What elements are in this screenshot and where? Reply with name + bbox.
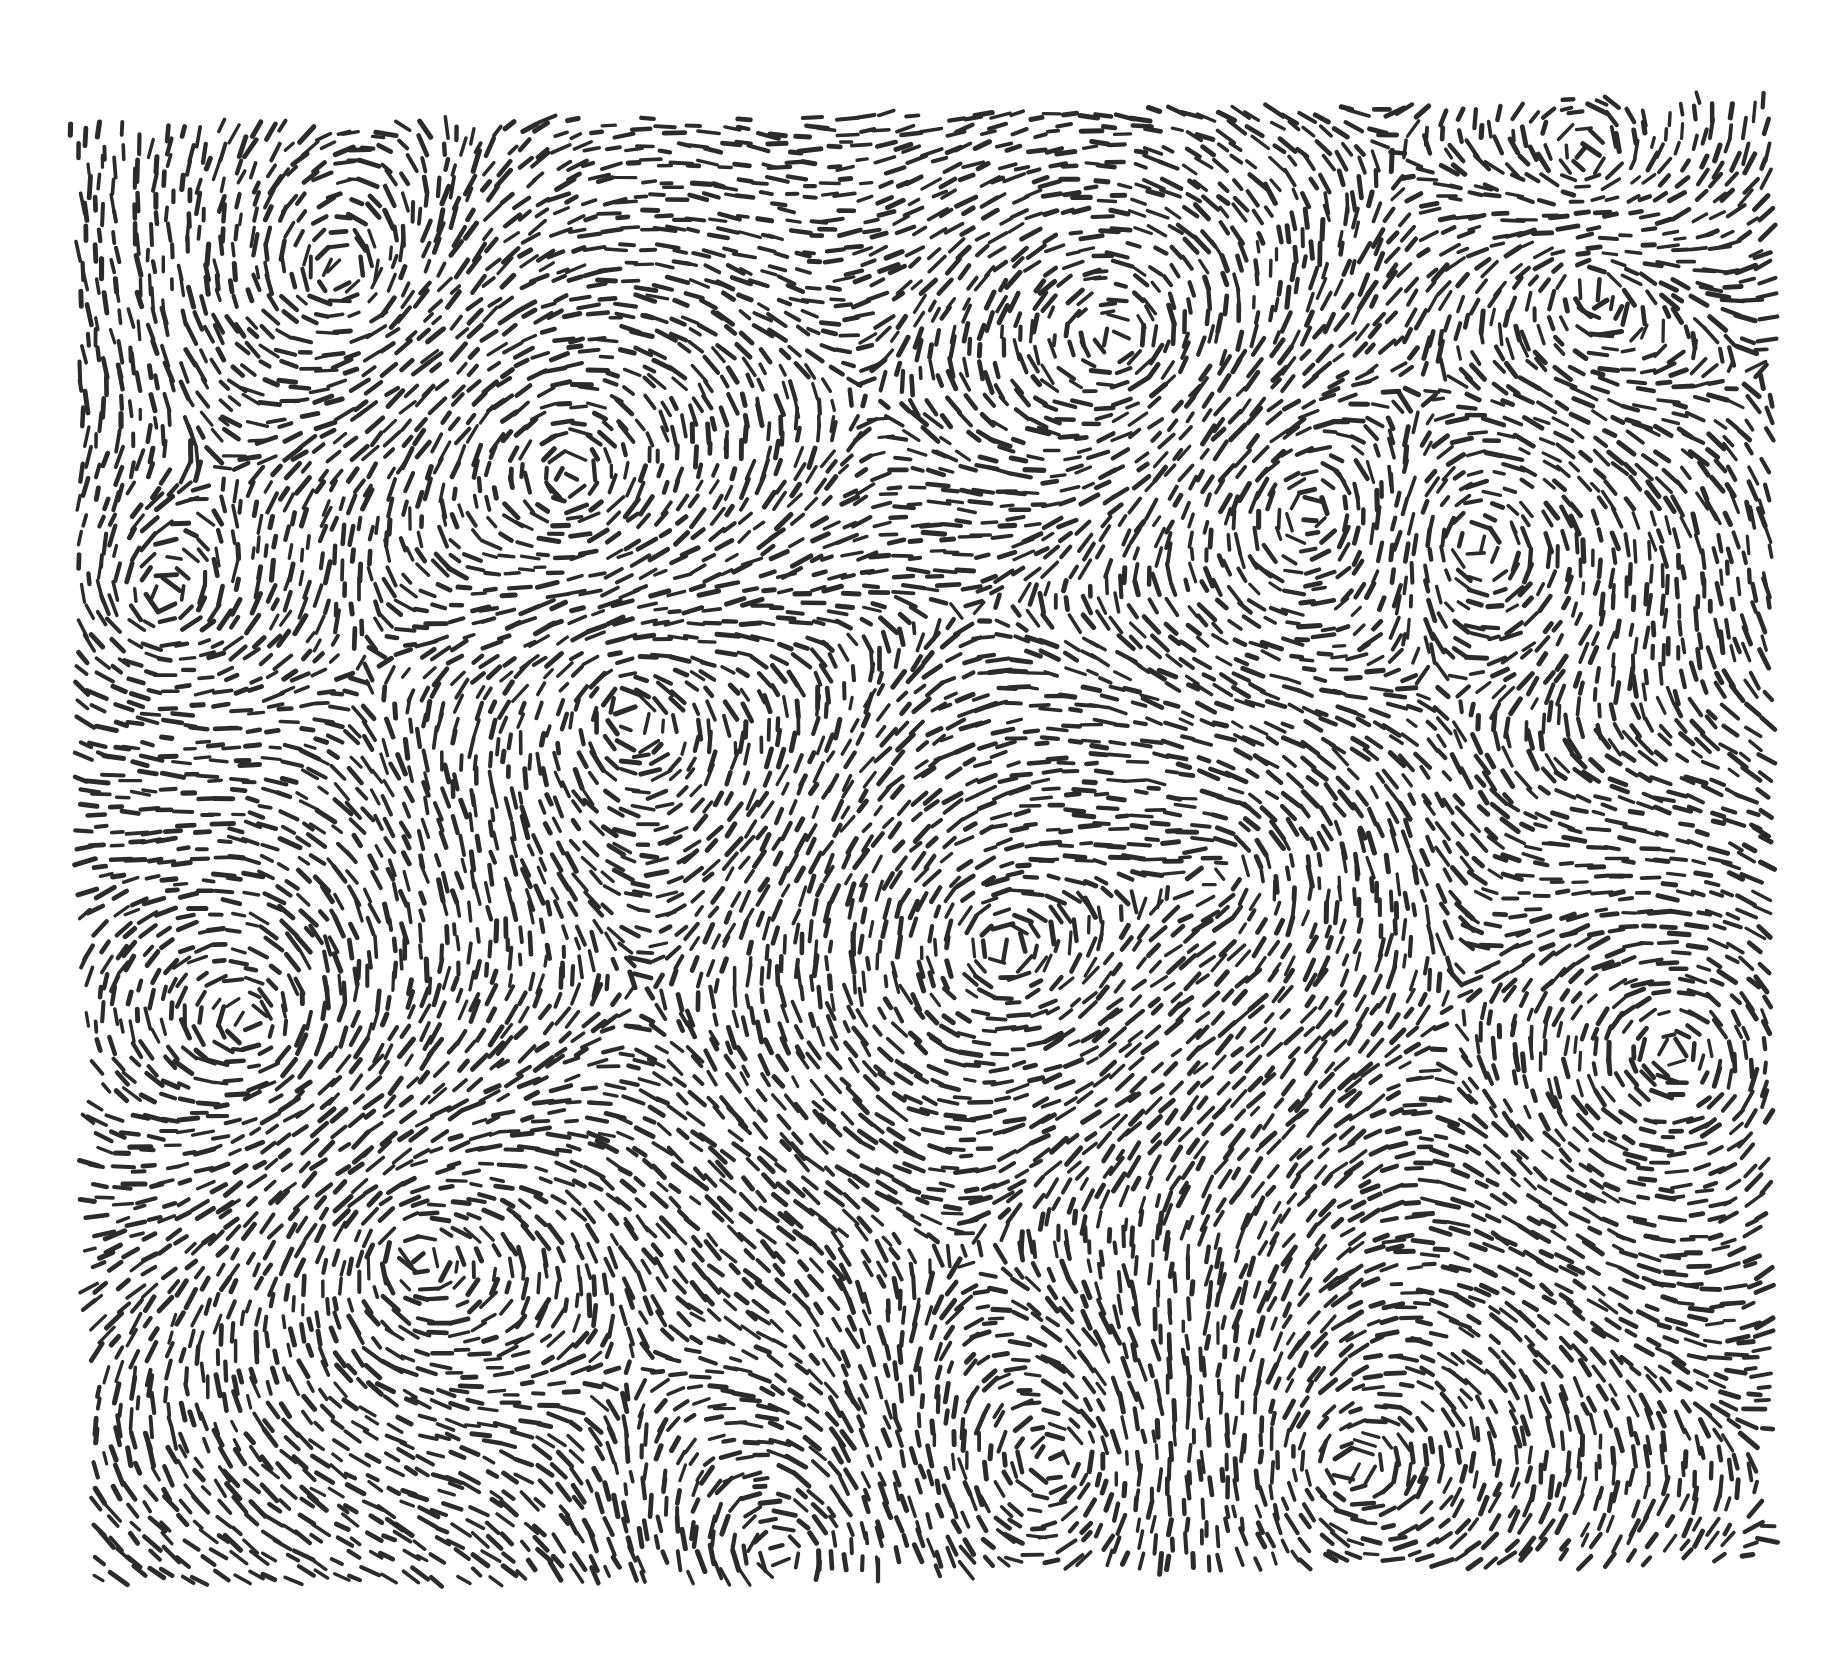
ink-dash [1135,722,1146,724]
ink-dash [1043,194,1060,197]
ink-dash [695,447,696,467]
ink-dash [1729,1460,1732,1479]
ink-dash [1178,764,1189,767]
ink-dash [1613,595,1614,608]
ink-dash [143,1165,155,1166]
ink-dash [142,714,160,715]
ink-dash [829,167,840,168]
ink-dash [316,1312,318,1326]
ink-dash [1092,216,1113,217]
ink-dash [1404,577,1406,593]
ink-dash [1557,1484,1560,1496]
ink-dash [1683,1463,1684,1475]
ink-dash [199,799,211,800]
ink-dash [1256,261,1258,274]
ink-dash [1510,915,1525,917]
ink-dash [510,975,512,986]
ink-dash [1512,1022,1514,1035]
ink-dash [1669,933,1689,935]
ink-dash [1121,906,1122,920]
ink-dash [1037,743,1048,744]
ink-dash [1676,579,1677,597]
ink-dash [279,380,296,382]
ink-dash [639,1529,642,1547]
ink-dash [249,712,264,714]
ink-dash [1550,1477,1552,1498]
ink-dash [1643,307,1645,324]
ink-dash [395,704,396,718]
ink-dash [1357,867,1358,879]
ink-dash [1613,654,1614,667]
ink-dash [176,644,187,646]
ink-dash [1319,878,1320,888]
ink-dash [174,811,193,812]
ink-dash [272,560,274,580]
ink-dash [1123,856,1143,859]
ink-dash [772,203,785,205]
ink-dash [190,727,207,729]
ink-dash [1039,1536,1056,1538]
ink-dash [553,421,573,424]
ink-dash [126,860,145,861]
ink-dash [1421,203,1437,206]
ink-dash [1595,212,1610,213]
ink-dash [1033,1428,1043,1430]
ink-dash [860,936,863,953]
ink-dash [206,277,208,294]
ink-dash [708,424,709,443]
ink-dash [1074,1211,1075,1223]
ink-dash [1563,192,1574,195]
ink-dash [1152,823,1168,824]
ink-dash [151,1417,153,1438]
ink-dash [1613,1463,1614,1484]
ink-dash [1180,857,1191,858]
ink-dash [1208,1425,1209,1445]
ink-dash [735,164,750,166]
ink-dash [515,1406,531,1409]
ink-dash [1386,1373,1405,1374]
ink-dash [615,201,636,202]
ink-dash [413,202,414,222]
ink-dash [1710,120,1713,139]
ink-dash [344,983,345,1003]
ink-dash [702,662,714,665]
ink-dash [1474,109,1476,128]
ink-dash [266,545,267,556]
ink-dash [258,537,259,552]
ink-dash [650,1495,651,1517]
ink-dash [1643,122,1645,133]
ink-dash [1633,597,1634,610]
ink-dash [1234,1418,1236,1434]
ink-dash [340,1279,342,1294]
ink-dash [1013,1360,1029,1361]
ink-dash [114,1187,131,1189]
ink-dash [159,659,170,661]
ink-dash [532,1128,550,1131]
ink-dash [827,249,844,251]
ink-dash [1081,236,1102,239]
ink-dash [1304,520,1317,521]
ink-dash [1169,1520,1172,1535]
ink-dash [1144,859,1165,860]
ink-dash [710,219,726,221]
ink-dash [1354,889,1355,904]
ink-dash [133,1171,145,1172]
ink-dash [745,1442,758,1443]
ink-dash [666,1498,667,1515]
ink-dash [1322,220,1323,240]
ink-dash [944,524,961,526]
ink-dash [469,1354,490,1355]
ink-dash [947,1128,960,1129]
ink-dash [1101,303,1115,305]
ink-dash [1583,583,1584,594]
ink-dash [226,1061,244,1062]
ink-dash [989,1318,1002,1319]
ink-dash [1074,920,1077,941]
ink-dash [521,464,522,477]
ink-dash [1515,1054,1518,1070]
ink-dash [173,713,193,715]
ink-dash [90,845,104,846]
ink-dash [1470,215,1484,218]
ink-dash [877,954,878,969]
ink-dash [1407,1132,1419,1134]
